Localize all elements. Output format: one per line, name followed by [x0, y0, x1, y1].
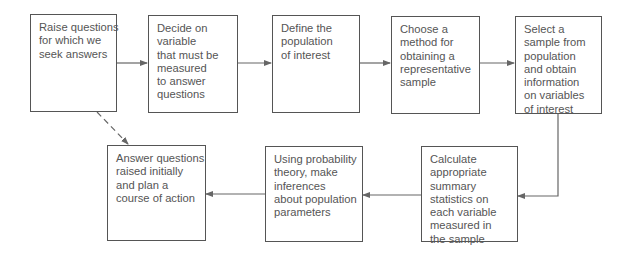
arrow-n5-n6: [518, 113, 558, 196]
node-raise-questions: Raise questions for which we seek answer…: [30, 14, 117, 112]
node-text-line: for which we: [39, 34, 116, 47]
node-text-line: parameters: [274, 206, 362, 219]
node-text-line: information: [524, 76, 601, 89]
node-text-line: statistics on: [430, 193, 517, 206]
node-answer-questions: Answer questions raised initially and pl…: [107, 145, 206, 241]
node-text-line: summary: [430, 180, 517, 193]
node-text-line: on variables: [524, 89, 601, 102]
node-text-line: variable: [157, 35, 237, 48]
node-text-line: the sample: [430, 233, 517, 246]
node-text-line: Choose a: [400, 23, 479, 36]
node-text-line: Define the: [281, 22, 359, 35]
node-define-population: Define the population of interest: [272, 15, 360, 113]
node-text-line: to answer: [157, 75, 237, 88]
node-text-line: inferences: [274, 180, 362, 193]
node-text-line: of interest: [281, 49, 359, 62]
node-text-line: questions: [157, 88, 237, 101]
node-text-line: Decide on: [157, 22, 237, 35]
node-text-line: and obtain: [524, 63, 601, 76]
node-text-line: appropriate: [430, 166, 517, 179]
node-text-line: Calculate: [430, 153, 517, 166]
node-text-line: sample: [400, 76, 479, 89]
node-text-line: Select a: [524, 23, 601, 36]
node-make-inferences: Using probability theory, make inference…: [265, 146, 363, 242]
node-text-line: of interest: [524, 103, 601, 116]
node-text-line: obtaining a: [400, 50, 479, 63]
arrow-n1-n8-dashed: [97, 112, 128, 144]
node-text-line: population: [524, 50, 601, 63]
node-text-line: Answer questions: [116, 152, 205, 165]
node-decide-variable: Decide on variable that must be measured…: [148, 15, 238, 113]
node-text-line: course of action: [116, 192, 205, 205]
node-choose-method: Choose a method for obtaining a represen…: [391, 16, 480, 114]
node-text-line: measured: [157, 62, 237, 75]
node-text-line: and plan a: [116, 179, 205, 192]
node-calculate-statistics: Calculate appropriate summary statistics…: [421, 146, 518, 242]
node-text-line: measured in: [430, 219, 517, 232]
node-text-line: raised initially: [116, 165, 205, 178]
node-text-line: sample from: [524, 36, 601, 49]
node-text-line: each variable: [430, 206, 517, 219]
node-text-line: representative: [400, 63, 479, 76]
node-text-line: that must be: [157, 49, 237, 62]
node-text-line: theory, make: [274, 166, 362, 179]
node-text-line: about population: [274, 193, 362, 206]
node-text-line: population: [281, 35, 359, 48]
node-text-line: Raise questions: [39, 21, 116, 34]
node-text-line: Using probability: [274, 153, 362, 166]
node-text-line: seek answers: [39, 48, 116, 61]
node-text-line: method for: [400, 36, 479, 49]
node-select-sample: Select a sample from population and obta…: [515, 16, 602, 114]
